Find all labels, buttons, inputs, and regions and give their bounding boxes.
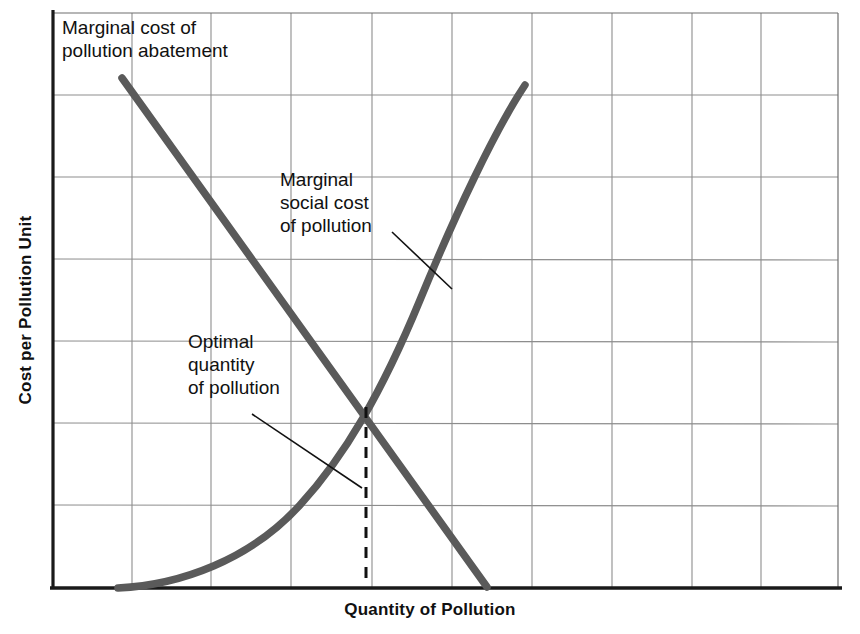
chart-figure: Marginal cost of pollution abatement Mar… bbox=[0, 0, 860, 634]
y-axis-label: Cost per Pollution Unit bbox=[16, 200, 36, 420]
annotation-marginal-social-cost: Marginal social cost of pollution bbox=[280, 168, 372, 238]
chart-plot-area bbox=[0, 0, 860, 634]
annotation-marginal-cost-abatement: Marginal cost of pollution abatement bbox=[62, 16, 228, 62]
plot-background bbox=[53, 13, 838, 587]
x-axis-label: Quantity of Pollution bbox=[0, 600, 860, 620]
annotation-optimal-quantity: Optimal quantity of pollution bbox=[188, 330, 280, 400]
